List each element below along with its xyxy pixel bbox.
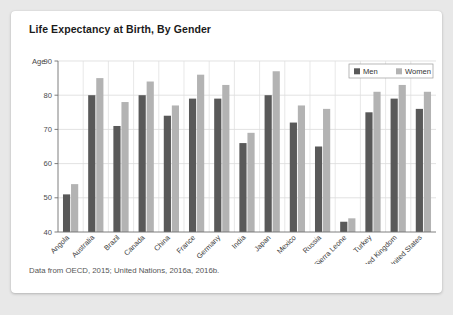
bar-women-canada	[147, 82, 154, 232]
bar-women-brazil	[121, 102, 128, 232]
x-axis-category-label: Russia	[301, 232, 324, 255]
bar-women-united-states	[424, 92, 431, 232]
bar-women-china	[172, 105, 179, 232]
bar-women-mexico	[298, 105, 305, 232]
bar-women-russia	[323, 109, 330, 232]
source-footnote: Data from OECD, 2015; United Nations, 20…	[29, 266, 219, 275]
x-axis-category-label: Angola	[49, 232, 72, 255]
page-title: Life Expectancy at Birth, By Gender	[29, 23, 211, 35]
bar-men-france	[189, 99, 196, 232]
bar-women-turkey	[373, 92, 380, 232]
bar-men-canada	[139, 95, 146, 232]
y-axis-tick-label: 80	[44, 91, 52, 100]
x-axis-category-label: Turkey	[351, 233, 373, 255]
x-axis-category-label: Australia	[70, 232, 97, 259]
bar-chart: 405060708090AgeAngolaAustraliaBrazilCana…	[11, 39, 442, 264]
x-axis-category-label: Brazil	[102, 233, 122, 253]
bar-women-angola	[71, 184, 78, 232]
bar-women-japan	[273, 71, 280, 232]
legend-label-men: Men	[363, 67, 378, 76]
bar-women-australia	[96, 78, 103, 232]
legend-swatch-men	[354, 68, 360, 74]
y-axis-label: Age	[32, 57, 46, 66]
bar-men-turkey	[365, 112, 372, 232]
y-axis-tick-label: 60	[44, 159, 52, 168]
legend-label-women: Women	[405, 67, 431, 76]
y-axis-tick-label: 70	[44, 125, 52, 134]
bar-men-brazil	[113, 126, 120, 232]
y-axis-tick-label: 40	[44, 228, 52, 237]
bar-men-angola	[63, 194, 70, 232]
bar-men-united-kingdom	[391, 99, 398, 232]
bar-men-china	[164, 116, 171, 232]
bar-women-germany	[222, 85, 229, 232]
x-axis-category-label: India	[230, 232, 248, 250]
y-axis-tick-label: 50	[44, 193, 52, 202]
bar-men-germany	[214, 99, 221, 232]
bar-men-russia	[315, 147, 322, 233]
bar-women-france	[197, 75, 204, 232]
bar-men-australia	[88, 95, 95, 232]
bar-men-sierra-leone	[340, 222, 347, 232]
bar-women-united-kingdom	[399, 85, 406, 232]
bar-women-india	[247, 133, 254, 232]
x-axis-category-label: Germany	[195, 233, 223, 261]
legend-swatch-women	[396, 68, 402, 74]
bar-men-united-states	[416, 109, 423, 232]
bar-men-mexico	[290, 123, 297, 232]
chart-card: Life Expectancy at Birth, By Gender 4050…	[11, 11, 442, 293]
bar-men-india	[239, 143, 246, 232]
x-axis-category-label: Mexico	[275, 233, 298, 256]
x-axis-category-label: France	[175, 233, 197, 255]
x-axis-category-label: Canada	[122, 232, 147, 257]
bar-women-sierra-leone	[348, 218, 355, 232]
bar-men-japan	[265, 95, 272, 232]
x-axis-category-label: Japan	[252, 233, 272, 253]
x-axis-category-label: China	[152, 232, 173, 253]
